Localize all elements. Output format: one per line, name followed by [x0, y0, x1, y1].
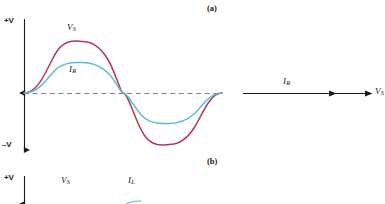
phasor-voltage-subscript: S — [381, 89, 384, 96]
phasor-arrowhead-mid — [329, 91, 337, 97]
phasor-voltage-label: VS — [375, 87, 384, 97]
phasor-current-label: IR — [283, 77, 290, 87]
panel-a-positive-voltage-label: +V — [4, 17, 14, 25]
phasor-current-subscript: R — [286, 79, 290, 86]
source-voltage-symbol: V — [67, 22, 73, 32]
source-voltage-subscript: S — [73, 25, 76, 32]
panel-b-positive-voltage-label: +V — [4, 174, 14, 182]
panel-letter-a: (a) — [207, 4, 217, 13]
panel-b-inductive-current-label: IL — [128, 176, 135, 186]
panel-a-negative-voltage-label: –V — [2, 141, 11, 149]
panel-b-source-voltage-symbol: V — [61, 175, 67, 185]
phasor-arrowhead-end — [365, 91, 373, 97]
resistive-current-curve-label: IR — [69, 65, 76, 75]
resistive-current-subscript: R — [72, 67, 76, 74]
panel-b-source-voltage-subscript: S — [67, 178, 70, 185]
figure-root: (a) (b) +V –V VS IR IR VS +V VS IL — [0, 0, 385, 204]
phasor-voltage-symbol: V — [375, 86, 381, 96]
panel-b-source-voltage-label: VS — [61, 176, 70, 186]
source-voltage-curve-label: VS — [67, 23, 76, 33]
inductive-current-waveform-b — [127, 201, 141, 203]
waveform-graphics — [0, 0, 385, 204]
panel-b-inductive-current-subscript: L — [131, 178, 135, 185]
panel-letter-b: (b) — [207, 157, 217, 166]
